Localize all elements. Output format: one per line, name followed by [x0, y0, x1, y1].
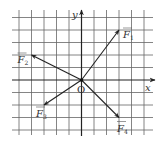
vector-diagram: x y F1F2F3F4 O — [0, 0, 163, 151]
vector-arrow-f4 — [82, 80, 120, 118]
vector-label-f1: F1 — [122, 29, 134, 41]
y-axis-label: y — [71, 9, 78, 20]
vector-label-f4: F4 — [116, 123, 128, 135]
vector-f1: F1 — [82, 28, 134, 80]
origin-point — [80, 78, 84, 82]
x-axis-label: x — [145, 82, 151, 93]
origin-label: O — [77, 84, 85, 95]
y-axis: y — [71, 9, 82, 136]
vector-label-f3: F3 — [35, 108, 47, 120]
vectors: F1F2F3F4 — [17, 28, 134, 135]
vector-label-f2: F2 — [17, 54, 29, 66]
vector-f3: F3 — [35, 80, 82, 120]
vector-f4: F4 — [82, 80, 128, 135]
vector-f2: F2 — [17, 53, 82, 80]
grid — [12, 10, 153, 135]
